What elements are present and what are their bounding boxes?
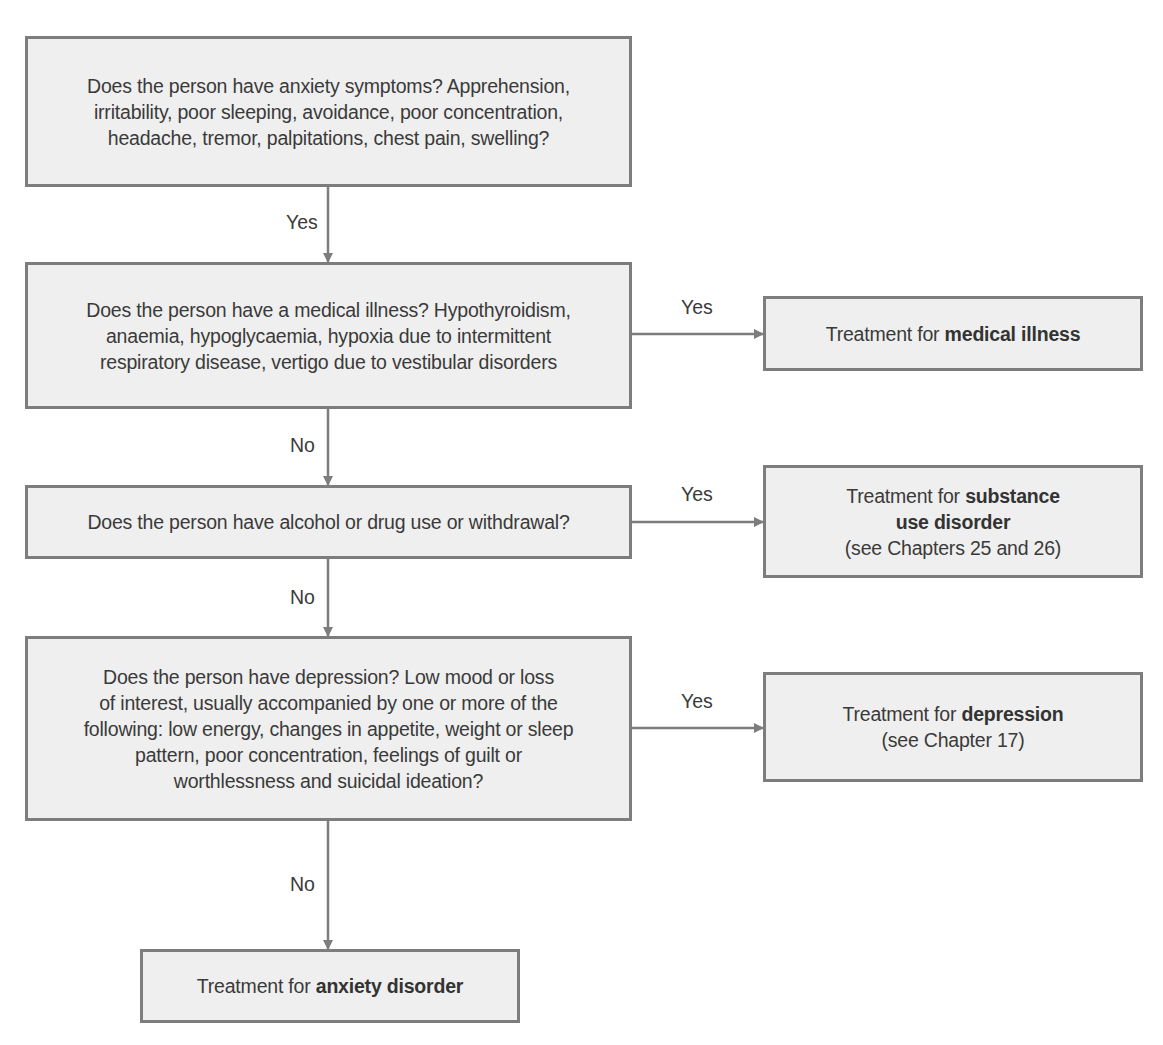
- text-line: Does the person have a medical illness? …: [86, 297, 570, 323]
- text-line: respiratory disease, vertigo due to vest…: [86, 349, 570, 375]
- edge-label-yes: Yes: [681, 483, 713, 506]
- outcome-medical-illness: Treatment for medical illness: [763, 296, 1143, 371]
- outcome-prefix: Treatment for: [826, 323, 945, 345]
- outcome-bold: substance: [965, 485, 1060, 507]
- text-line: irritability, poor sleeping, avoidance, …: [87, 99, 570, 125]
- outcome-bold: anxiety disorder: [316, 975, 463, 997]
- outcome-bold: use disorder: [896, 511, 1011, 533]
- edge-label-yes: Yes: [681, 690, 713, 713]
- edge-label-yes: Yes: [286, 211, 318, 234]
- outcome-substance-use-disorder: Treatment for substance use disorder (se…: [763, 465, 1143, 578]
- edge-label-no: No: [290, 873, 315, 896]
- text-line: worthlessness and suicidal ideation?: [84, 768, 574, 794]
- text-line: Does the person have alcohol or drug use…: [87, 509, 569, 535]
- decision-medical-illness: Does the person have a medical illness? …: [25, 262, 632, 409]
- outcome-prefix: Treatment for: [197, 975, 316, 997]
- edge-label-no: No: [290, 434, 315, 457]
- text-line: Does the person have depression? Low moo…: [84, 664, 574, 690]
- outcome-prefix: Treatment for: [843, 703, 962, 725]
- text-line: Does the person have anxiety symptoms? A…: [87, 73, 570, 99]
- text-line: following: low energy, changes in appeti…: [84, 716, 574, 742]
- outcome-prefix: Treatment for: [846, 485, 965, 507]
- text-line: of interest, usually accompanied by one …: [84, 690, 574, 716]
- outcome-anxiety-disorder: Treatment for anxiety disorder: [140, 949, 520, 1023]
- decision-depression: Does the person have depression? Low moo…: [25, 636, 632, 821]
- edge-label-yes: Yes: [681, 296, 713, 319]
- text-line: pattern, poor concentration, feelings of…: [84, 742, 574, 768]
- outcome-depression: Treatment for depression (see Chapter 17…: [763, 672, 1143, 782]
- edge-label-no: No: [290, 586, 315, 609]
- outcome-bold: depression: [961, 703, 1063, 725]
- chapter-reference: (see Chapter 17): [843, 727, 1064, 753]
- text-line: headache, tremor, palpitations, chest pa…: [87, 125, 570, 151]
- text-line: anaemia, hypoglycaemia, hypoxia due to i…: [86, 323, 570, 349]
- outcome-bold: medical illness: [945, 323, 1081, 345]
- decision-anxiety-symptoms: Does the person have anxiety symptoms? A…: [25, 36, 632, 187]
- chapter-reference: (see Chapters 25 and 26): [845, 535, 1061, 561]
- decision-substance-use: Does the person have alcohol or drug use…: [25, 485, 632, 559]
